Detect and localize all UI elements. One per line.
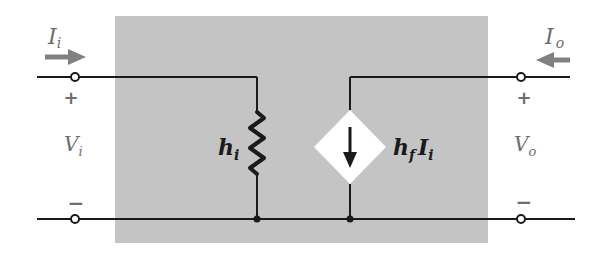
input-voltage-label: Vi — [64, 132, 83, 159]
junction-dot-left — [254, 216, 261, 223]
output-terminal-bottom — [517, 215, 525, 223]
output-voltage-label: Vo — [514, 132, 536, 159]
input-current-arrow-icon — [45, 49, 86, 65]
output-current-label: Io — [544, 24, 564, 51]
circuit-diagram: Ii Io + + − − Vi Vo hi hfIi — [0, 0, 611, 255]
two-port-box — [115, 16, 488, 243]
input-terminal-top — [71, 73, 79, 81]
input-current-label: Ii — [47, 24, 61, 51]
junction-dot-right — [347, 216, 354, 223]
input-minus-sign: − — [68, 191, 85, 215]
output-plus-sign: + — [516, 87, 531, 108]
input-plus-sign: + — [63, 87, 78, 108]
output-terminal-top — [517, 73, 525, 81]
output-current-arrow-icon — [536, 52, 570, 68]
input-terminal-bottom — [71, 215, 79, 223]
output-minus-sign: − — [516, 190, 533, 214]
